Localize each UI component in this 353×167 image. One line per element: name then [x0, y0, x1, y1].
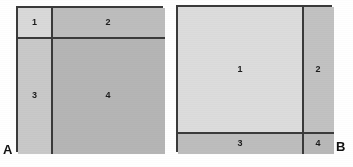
panel-a-region-2: 2 [51, 8, 165, 37]
panel-a-region-3: 3 [18, 37, 51, 154]
panel-a: 1 2 3 4 [16, 6, 163, 152]
panel-a-region-4-label: 4 [105, 91, 110, 100]
panel-a-region-1: 1 [18, 8, 51, 37]
panel-a-region-1-label: 1 [32, 18, 37, 27]
panel-a-caption: A [3, 143, 12, 156]
panel-b-region-1: 1 [178, 7, 302, 132]
panel-b-region-4: 4 [302, 132, 334, 154]
panel-b-region-2: 2 [302, 7, 334, 132]
panel-b-horizontal-divider [178, 132, 334, 134]
panel-a-region-2-label: 2 [105, 18, 110, 27]
panel-b-region-3: 3 [178, 132, 302, 154]
panel-b-caption: B [336, 140, 345, 153]
panel-a-region-3-label: 3 [32, 91, 37, 100]
panel-b-region-2-label: 2 [315, 65, 320, 74]
panel-a-vertical-divider [51, 8, 53, 154]
figure-canvas: 1 2 3 4 A 1 2 3 4 B [0, 0, 353, 167]
panel-a-region-4: 4 [51, 37, 165, 154]
panel-b: 1 2 3 4 [176, 5, 332, 152]
panel-a-horizontal-divider [18, 37, 165, 39]
panel-b-region-1-label: 1 [237, 65, 242, 74]
panel-b-region-4-label: 4 [315, 139, 320, 148]
panel-b-region-3-label: 3 [237, 139, 242, 148]
